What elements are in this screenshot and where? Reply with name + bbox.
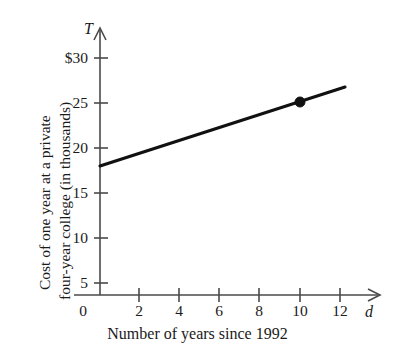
x-tick-label-2: 2 (125, 303, 153, 319)
data-point-marker (295, 97, 305, 107)
origin-label: 0 (72, 303, 94, 319)
x-axis-title: Number of years since 1992 (0, 325, 395, 343)
y-axis (94, 28, 106, 295)
y-axis-title-line-2: four-year college (in thousands) (56, 102, 74, 300)
x-axis-variable-label: d (365, 303, 373, 321)
x-tick-label-4: 4 (165, 303, 193, 319)
y-tick-marks (94, 58, 108, 283)
x-tick-label-8: 8 (245, 303, 273, 319)
x-axis (74, 289, 380, 301)
trend-line (100, 87, 345, 166)
y-axis-variable-label: T (84, 20, 93, 38)
x-tick-label-10: 10 (286, 303, 314, 319)
x-tick-label-12: 12 (326, 303, 354, 319)
y-axis-title-line-1: Cost of one year at a private (36, 115, 54, 290)
x-tick-label-6: 6 (205, 303, 233, 319)
y-tick-label-30: $30 (40, 50, 88, 66)
chart-figure: T d $30 25 20 15 10 5 0 2 4 6 8 10 12 Nu… (0, 0, 395, 352)
